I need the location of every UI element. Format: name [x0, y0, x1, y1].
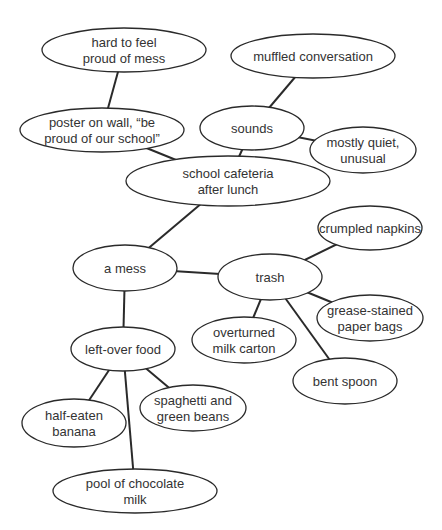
node-label: unusual	[340, 151, 386, 166]
node-label: grease-stained	[327, 303, 413, 318]
node-food: left-over food	[71, 327, 175, 371]
node-label: proud of mess	[83, 51, 166, 66]
node-hard: hard to feelproud of mess	[42, 28, 206, 72]
node-label: banana	[52, 424, 96, 439]
node-spaghetti: spaghetti andgreen beans	[140, 385, 246, 431]
node-spoon: bent spoon	[293, 358, 397, 404]
node-label: trash	[256, 270, 285, 285]
node-label: spaghetti and	[154, 393, 232, 408]
node-label: crumpled napkins	[319, 221, 421, 236]
node-label: mostly quiet,	[327, 135, 400, 150]
node-cafeteria: school cafeteriaafter lunch	[126, 156, 330, 206]
nodes-layer: hard to feelproud of messposter on wall,…	[20, 28, 423, 513]
node-label: left-over food	[85, 342, 161, 357]
node-napkins: crumpled napkins	[318, 206, 422, 250]
node-bags: grease-stainedpaper bags	[317, 295, 423, 341]
node-label: school cafeteria	[182, 166, 274, 181]
node-label: a mess	[104, 261, 146, 276]
node-label: half-eaten	[45, 408, 103, 423]
node-label: milk	[123, 492, 147, 507]
node-banana: half-eatenbanana	[22, 399, 126, 447]
node-label: after lunch	[198, 182, 259, 197]
node-label: sounds	[231, 121, 273, 136]
node-label: paper bags	[337, 319, 403, 334]
node-label: poster on wall, “be	[49, 115, 155, 130]
node-label: pool of chocolate	[86, 476, 184, 491]
node-trash: trash	[218, 254, 322, 300]
node-carton: overturnedmilk carton	[192, 317, 296, 363]
node-poster: poster on wall, “beproud of our school”	[20, 108, 184, 152]
node-mess: a mess	[73, 245, 177, 291]
node-label: overturned	[213, 325, 275, 340]
node-sounds: sounds	[200, 106, 304, 150]
cluster-diagram: hard to feelproud of messposter on wall,…	[0, 0, 442, 530]
node-label: milk carton	[213, 341, 276, 356]
node-label: muffled conversation	[253, 49, 373, 64]
node-quiet: mostly quiet,unusual	[310, 127, 416, 173]
node-label: proud of our school”	[44, 131, 160, 146]
node-label: bent spoon	[313, 374, 377, 389]
node-muffled: muffled conversation	[231, 34, 395, 78]
node-label: hard to feel	[91, 35, 156, 50]
node-chocolate: pool of chocolatemilk	[53, 469, 217, 513]
node-label: green beans	[157, 409, 230, 424]
